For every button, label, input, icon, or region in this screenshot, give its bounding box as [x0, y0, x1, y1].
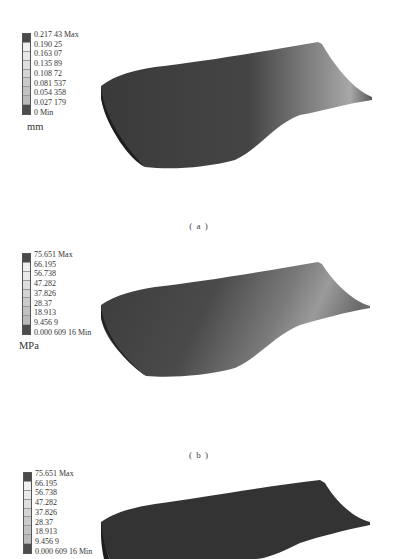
- blade-model-stress: [0, 240, 398, 465]
- panel-b: 75.651 Max 66.195 56.738 47.282 37.826 2…: [0, 240, 398, 465]
- blade-model-displacement: [0, 0, 398, 240]
- panel-a: 0.217 43 Max 0.190 25 0.163 07 0.135 89 …: [0, 0, 398, 240]
- blade-model-stress-c: [0, 465, 398, 559]
- panel-c: 75.651 Max 66.195 56.738 47.282 37.826 2…: [0, 465, 398, 559]
- caption-a: ( a ): [0, 221, 398, 231]
- caption-b: ( b ): [0, 450, 398, 460]
